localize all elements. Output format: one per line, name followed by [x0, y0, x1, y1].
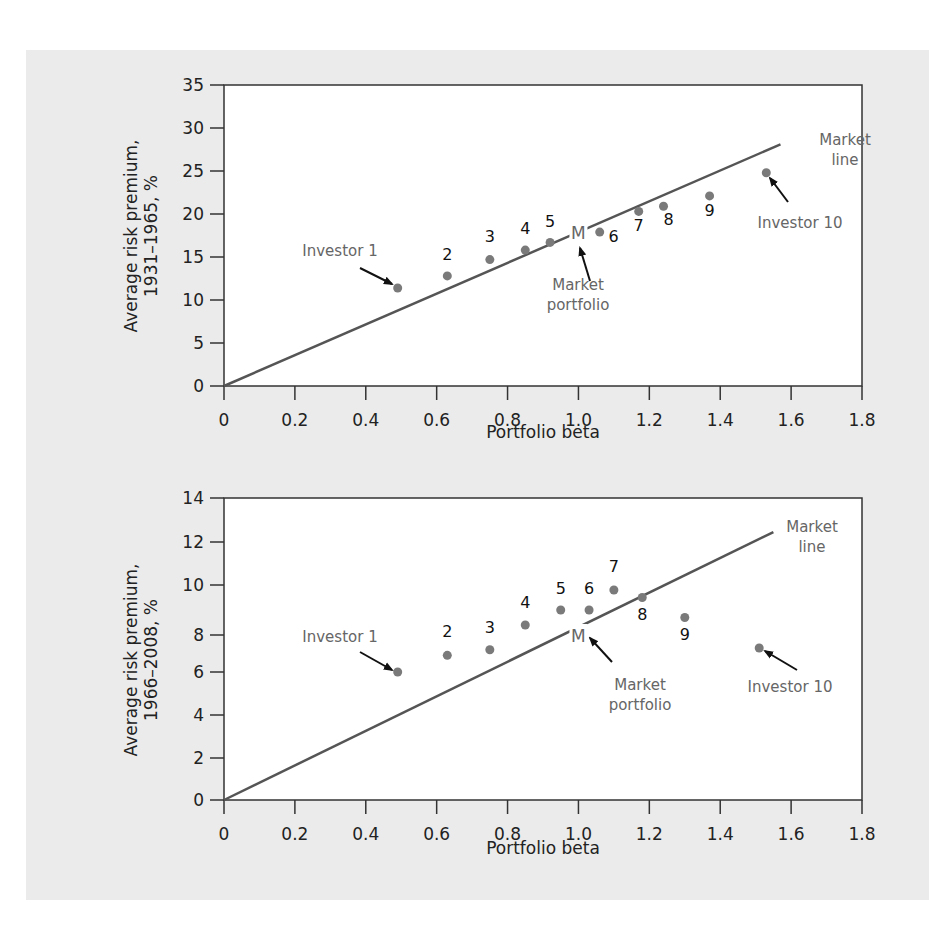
- data-point: [521, 246, 530, 255]
- x-axis-title: Portfolio beta: [486, 838, 600, 858]
- market-line-label-line: line: [798, 538, 825, 556]
- point-label: 5: [556, 579, 566, 598]
- market-portfolio-label-line: Market: [614, 676, 666, 694]
- y-axis-title: Average risk premium,1931–1965, %: [121, 140, 161, 333]
- investor-1-label: Investor 1: [302, 242, 377, 260]
- market-portfolio-label-line: Market: [552, 276, 604, 294]
- y-axis-title-line: Average risk premium,: [121, 140, 141, 333]
- x-tick-label: 0.4: [352, 824, 379, 844]
- investor-10-label: Investor 10: [748, 678, 833, 696]
- x-tick-label: 1.8: [848, 410, 875, 430]
- y-tick-label: 25: [182, 161, 204, 181]
- point-label: 3: [485, 227, 495, 246]
- x-tick-label: 0.6: [423, 410, 450, 430]
- y-tick-label: 0: [193, 376, 204, 396]
- y-tick-label: 10: [182, 575, 204, 595]
- x-tick-label: 1.4: [707, 824, 734, 844]
- data-point: [762, 168, 771, 177]
- x-tick-label: 0.2: [281, 410, 308, 430]
- point-label: 6: [584, 579, 594, 598]
- y-tick-label: 6: [193, 662, 204, 682]
- y-tick-label: 4: [193, 705, 204, 725]
- market-line-label-line: Market: [786, 518, 838, 536]
- data-point: [393, 283, 402, 292]
- data-point: [443, 651, 452, 660]
- data-point: [638, 593, 647, 602]
- y-tick-label: 35: [182, 75, 204, 95]
- data-point: [634, 207, 643, 216]
- data-point: [556, 606, 565, 615]
- x-tick-label: 0.6: [423, 824, 450, 844]
- data-point: [680, 613, 689, 622]
- data-point: [485, 255, 494, 264]
- y-tick-label: 2: [193, 748, 204, 768]
- market-portfolio-marker: M: [571, 626, 586, 646]
- point-label: 7: [634, 216, 644, 235]
- y-axis-title: Average risk premium,1966–2008, %: [121, 564, 161, 757]
- data-point: [705, 191, 714, 200]
- data-point: [521, 621, 530, 630]
- market-portfolio-label-line: portfolio: [547, 296, 610, 314]
- y-tick-label: 10: [182, 290, 204, 310]
- market-line-label-line: line: [831, 151, 858, 169]
- data-point: [393, 668, 402, 677]
- x-tick-label: 1.2: [636, 824, 663, 844]
- x-tick-label: 1.2: [636, 410, 663, 430]
- y-tick-label: 8: [193, 625, 204, 645]
- point-label: 9: [680, 625, 690, 644]
- x-axis-title: Portfolio beta: [486, 422, 600, 442]
- market-portfolio-marker: M: [571, 223, 586, 243]
- y-axis-title-line: 1931–1965, %: [141, 175, 161, 297]
- point-label: 5: [545, 212, 555, 231]
- point-label: 3: [485, 618, 495, 637]
- data-point: [443, 271, 452, 280]
- x-tick-label: 1.4: [707, 410, 734, 430]
- chart-canvas: 0510152025303500.20.40.60.81.01.21.41.61…: [0, 0, 929, 945]
- data-point: [485, 645, 494, 654]
- point-label: 2: [442, 622, 452, 641]
- x-tick-label: 0: [219, 824, 230, 844]
- y-axis-title-line: 1966–2008, %: [141, 599, 161, 721]
- data-point: [755, 643, 764, 652]
- bottom-chart: 0246810121400.20.40.60.81.01.21.41.61.8P…: [121, 488, 876, 858]
- investor-10-label: Investor 10: [758, 214, 843, 232]
- point-label: 7: [609, 557, 619, 576]
- y-tick-label: 5: [193, 333, 204, 353]
- y-tick-label: 30: [182, 118, 204, 138]
- point-label: 2: [442, 245, 452, 264]
- x-tick-label: 0: [219, 410, 230, 430]
- y-tick-label: 12: [182, 532, 204, 552]
- y-tick-label: 0: [193, 790, 204, 810]
- x-tick-label: 0.2: [281, 824, 308, 844]
- data-point: [609, 586, 618, 595]
- point-label: 6: [609, 227, 619, 246]
- y-axis-title-line: Average risk premium,: [121, 564, 141, 757]
- point-label: 4: [520, 593, 530, 612]
- point-label: 9: [704, 201, 714, 220]
- y-tick-label: 20: [182, 204, 204, 224]
- data-point: [585, 606, 594, 615]
- point-label: 4: [520, 219, 530, 238]
- x-tick-label: 1.6: [778, 824, 805, 844]
- data-point: [595, 228, 604, 237]
- data-point: [546, 238, 555, 247]
- y-tick-label: 14: [182, 488, 204, 508]
- plot-area: [224, 85, 862, 386]
- x-tick-label: 1.8: [848, 824, 875, 844]
- point-label: 8: [663, 210, 673, 229]
- x-tick-label: 0.4: [352, 410, 379, 430]
- x-tick-label: 1.6: [778, 410, 805, 430]
- investor-1-label: Investor 1: [302, 628, 377, 646]
- market-line-label-line: Market: [819, 131, 871, 149]
- y-tick-label: 15: [182, 247, 204, 267]
- top-chart: 0510152025303500.20.40.60.81.01.21.41.61…: [121, 75, 876, 442]
- point-label: 8: [637, 605, 647, 624]
- market-portfolio-label-line: portfolio: [609, 696, 672, 714]
